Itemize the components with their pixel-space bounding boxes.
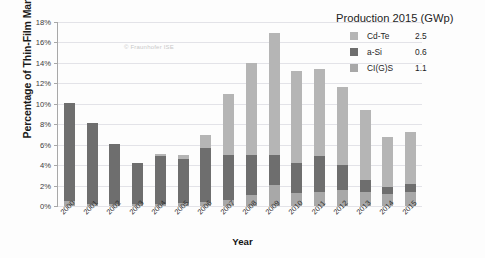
x-axis-title: Year [0,236,485,247]
bar-segment-a-si [200,148,211,202]
bar-segment-a-si [246,155,257,195]
bar-column [126,22,149,206]
y-axis-tick-label: 16% [36,38,51,47]
bar-column [286,22,309,206]
bar-column [58,22,81,206]
bar-column [217,22,240,206]
bar-segment-a-si [382,187,393,194]
bar-column [263,22,286,206]
bar-segment-cd-te [200,135,211,147]
bar-column [172,22,195,206]
y-axis-tick-label: 4% [40,161,51,170]
bar-segment-a-si [360,180,371,191]
legend-entry: a-Si0.6 [336,47,478,57]
bar-segment-cd-te [360,110,371,181]
bar-segment-a-si [87,123,98,204]
bar-segment-a-si [223,155,234,200]
bar-segment-a-si [291,163,302,193]
stacked-bar [246,63,257,206]
bar-column [308,22,331,206]
stacked-bar [223,94,234,206]
bar-segment-a-si [314,156,325,192]
stacked-bar [337,87,348,206]
bar-column [104,22,127,206]
thin-film-market-share-chart: Percentage of Thin-Film Market Share 0%2… [0,0,485,258]
stacked-bar [269,33,280,206]
bar-column [240,22,263,206]
bar-column [195,22,218,206]
bar-segment-cd-te [314,69,325,156]
y-axis-tick-label: 0% [40,202,51,211]
y-axis-tick-mark [54,206,58,207]
y-axis-tick-label: 14% [36,58,51,67]
legend-entry: Cd-Te2.5 [336,31,478,41]
stacked-bar [87,123,98,206]
y-axis-tick-label: 6% [40,140,51,149]
y-axis-tick-label: 10% [36,99,51,108]
bar-segment-cd-te [382,137,393,187]
legend-entry-value: 2.5 [415,31,427,41]
bar-segment-cd-te [223,94,234,155]
stacked-bar [64,103,75,206]
legend-entry-label: CI(G)S [367,63,409,73]
bar-column [149,22,172,206]
stacked-bar [360,110,371,206]
stacked-bar [314,69,325,206]
stacked-bar [200,135,211,206]
bar-segment-a-si [132,163,143,204]
bar-segment-a-si [64,103,75,201]
legend-swatch-icon [350,48,358,56]
legend-entry: CI(G)S1.1 [336,63,478,73]
bar-segment-a-si [109,144,120,204]
legend-entries: Cd-Te2.5a-Si0.6CI(G)S1.1 [336,31,478,73]
bar-segment-a-si [269,155,280,185]
legend-entry-label: Cd-Te [367,31,409,41]
y-axis-tick-label: 18% [36,18,51,27]
y-axis-tick-label: 8% [40,120,51,129]
bar-segment-a-si [178,159,189,203]
legend-entry-label: a-Si [367,47,409,57]
y-axis-tick-label: 12% [36,79,51,88]
y-axis-tick-label: 2% [40,181,51,190]
bar-segment-a-si [405,184,416,192]
stacked-bar [291,71,302,206]
y-axis-title: Percentage of Thin-Film Market Share [21,0,33,141]
bar-column [81,22,104,206]
bar-segment-cd-te [405,132,416,183]
legend-entry-value: 1.1 [415,63,427,73]
bar-segment-a-si [155,156,166,204]
stacked-bar [405,132,416,206]
legend-swatch-icon [350,64,358,72]
stacked-bar [382,137,393,206]
bar-segment-cd-te [269,33,280,155]
legend: Production 2015 (GWp) Cd-Te2.5a-Si0.6CI(… [336,12,478,73]
bar-segment-cd-te [337,87,348,165]
legend-swatch-icon [350,32,358,40]
bar-segment-a-si [337,165,348,190]
bar-segment-cd-te [291,71,302,163]
legend-entry-value: 0.6 [415,47,427,57]
bar-segment-cd-te [246,63,257,155]
stacked-bar [109,144,120,206]
legend-title: Production 2015 (GWp) [336,12,478,24]
